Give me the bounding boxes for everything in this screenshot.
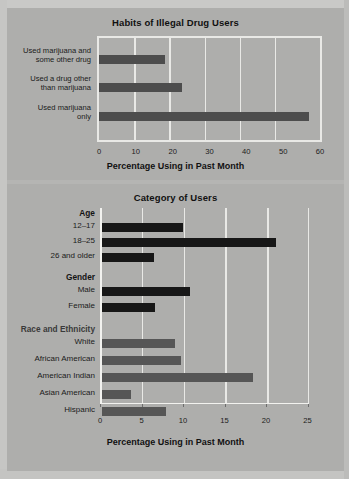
chart1-gridline-40	[240, 38, 242, 140]
chart2-group-header-gender: Gender	[7, 272, 95, 282]
chart2-x-axis-line	[100, 403, 309, 405]
chart2-tick-mark-3	[225, 404, 226, 407]
chart2-category-label-5: White	[7, 337, 95, 347]
chart2-category-label-8: Asian American	[7, 388, 95, 398]
chart2-tick-mark-2	[183, 404, 184, 407]
chart1-category-label-1: Used a drug other than marijuana	[9, 74, 91, 92]
figure-page: Habits of Illegal Drug Users Used mariju…	[0, 0, 349, 479]
chart2-x-axis-title: Percentage Using in Past Month	[7, 437, 344, 447]
chart2-category-label-7: American Indian	[7, 371, 95, 381]
chart2-bar-7	[102, 373, 254, 382]
chart1-bar-2	[99, 112, 309, 121]
chart2-category-label-0: 12–17	[7, 221, 95, 231]
chart2-plot-area	[100, 208, 309, 404]
chart1-x-axis-title: Percentage Using in Past Month	[7, 161, 344, 171]
chart2-title: Category of Users	[7, 192, 344, 203]
chart2-tick-label-4: 20	[255, 416, 277, 425]
chart2-bar-4	[102, 303, 156, 312]
chart2-category-label-4: Female	[7, 301, 95, 311]
chart1-bar-0	[99, 55, 165, 64]
chart1-tick-label-5: 50	[272, 147, 294, 156]
chart1-title: Habits of Illegal Drug Users	[7, 17, 344, 28]
chart2-tick-label-1: 5	[131, 416, 153, 425]
chart2-bar-6	[102, 356, 182, 365]
chart2-bar-5	[102, 339, 175, 348]
chart2-tick-label-5: 25	[297, 416, 319, 425]
chart2-tick-label-2: 10	[172, 416, 194, 425]
chart-panel-habits: Habits of Illegal Drug Users Used mariju…	[7, 8, 344, 180]
chart1-tick-label-6: 60	[309, 147, 331, 156]
chart1-tick-label-1: 10	[125, 147, 147, 156]
chart2-bar-3	[102, 287, 191, 296]
chart2-tick-label-3: 15	[214, 416, 236, 425]
chart2-category-label-2: 26 and older	[7, 251, 95, 261]
chart2-tick-mark-4	[266, 404, 267, 407]
chart1-plot-area	[97, 36, 322, 142]
scan-margin-right	[344, 0, 349, 479]
chart2-bar-1	[102, 238, 276, 247]
chart1-bar-1	[99, 83, 182, 92]
chart2-bar-8	[102, 390, 131, 399]
scan-margin-top	[0, 0, 349, 8]
chart2-category-label-9: Hispanic	[7, 405, 95, 415]
chart1-tick-label-0: 0	[88, 147, 110, 156]
scan-margin-left	[0, 0, 7, 479]
chart2-group-header-age: Age	[7, 208, 95, 218]
chart1-category-label-2: Used marijuana only	[9, 103, 91, 121]
chart2-tick-mark-1	[142, 404, 143, 407]
chart1-tick-label-4: 40	[235, 147, 257, 156]
chart2-tick-mark-0	[100, 404, 101, 407]
chart2-tick-mark-5	[308, 404, 309, 407]
chart2-bar-2	[102, 253, 154, 262]
chart2-group-header-race: Race and Ethnicity	[7, 324, 95, 334]
chart1-category-label-0: Used marijuana and some other drug	[9, 46, 91, 64]
chart1-gridline-50	[275, 38, 277, 140]
chart2-bar-9	[102, 407, 167, 416]
chart2-bar-0	[102, 223, 183, 232]
chart2-tick-label-0: 0	[89, 416, 111, 425]
chart2-category-label-1: 18–25	[7, 236, 95, 246]
chart1-tick-label-2: 20	[162, 147, 184, 156]
chart1-tick-label-3: 30	[199, 147, 221, 156]
chart2-gridline-25	[308, 208, 310, 404]
chart2-category-label-3: Male	[7, 285, 95, 295]
chart2-category-label-6: African American	[7, 354, 95, 364]
chart-panel-category: Category of Users Age Gender Race and Et…	[7, 184, 344, 471]
chart1-gridline-30	[205, 38, 207, 140]
